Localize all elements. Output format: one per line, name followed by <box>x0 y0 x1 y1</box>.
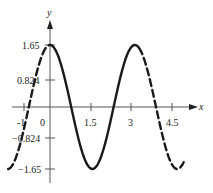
x-tick-label: 3 <box>128 117 133 128</box>
curve-dashed-right <box>139 48 184 169</box>
y-tick-label: 0.824 <box>17 75 40 86</box>
x-axis-arrow-icon <box>189 104 198 110</box>
y-axis-arrow-icon <box>47 20 53 29</box>
y-tick-label: −0.824 <box>12 133 40 144</box>
y-axis-label: y <box>46 7 52 18</box>
y-tick-label: 1.65 <box>22 40 40 51</box>
x-tick-label: 0 <box>40 117 45 128</box>
cosine-graph: -1 0 1.5 3 4.5 1.65 0.824 −0.824 −1.65 x… <box>0 0 213 193</box>
x-tick-label: 4.5 <box>166 117 179 128</box>
y-tick-label: −1.65 <box>18 164 41 175</box>
x-tick-label: 1.5 <box>84 117 97 128</box>
x-axis-label: x <box>198 101 204 112</box>
